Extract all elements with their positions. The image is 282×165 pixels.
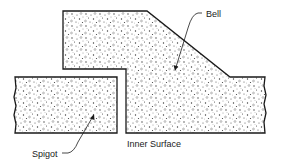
bell-label: Bell xyxy=(206,9,221,19)
spigot-label: Spigot xyxy=(32,149,58,159)
inner-surface-label: Inner Surface xyxy=(127,139,181,149)
spigot-section xyxy=(14,77,117,133)
bell-spigot-joint-diagram: Bell Spigot Inner Surface xyxy=(0,0,282,165)
